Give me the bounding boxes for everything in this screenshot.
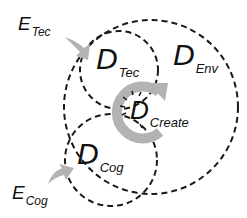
d-tec-sub: Tec xyxy=(119,65,139,80)
d-cog-main: D xyxy=(77,137,99,170)
d-create-main: D xyxy=(130,95,149,125)
d-env-label: DEnv xyxy=(173,40,218,70)
e-cog-main: E xyxy=(12,182,25,203)
d-create-sub: Create xyxy=(150,115,189,130)
e-tec-sub: Tec xyxy=(32,25,51,39)
d-env-main: D xyxy=(173,38,195,71)
e-tec-label: ETec xyxy=(18,14,51,33)
d-cog-label: DCog xyxy=(77,139,124,169)
d-cog-sub: Cog xyxy=(100,160,124,175)
e-tec-main: E xyxy=(18,13,31,34)
d-create-label: DCreate xyxy=(130,97,189,123)
d-tec-main: D xyxy=(96,42,118,75)
e-cog-label: ECog xyxy=(12,183,48,202)
d-env-sub: Env xyxy=(196,61,218,76)
d-tec-label: DTec xyxy=(96,44,139,74)
e-tec-arrow-icon xyxy=(65,37,90,60)
e-cog-sub: Cog xyxy=(26,194,48,208)
